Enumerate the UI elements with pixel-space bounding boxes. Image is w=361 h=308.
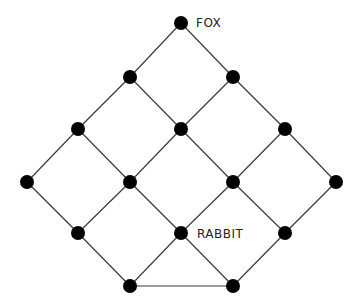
node-n12 (278, 226, 292, 240)
node-n13 (123, 279, 137, 293)
edge-n3-n6 (27, 129, 78, 182)
node-n1 (123, 70, 137, 84)
edge-n0-n1 (130, 23, 181, 77)
edge-n10-n13 (78, 233, 130, 286)
lattice-diagram: FOX RABBIT (0, 0, 361, 308)
edge-n0-n2 (181, 23, 233, 77)
node-n3 (71, 122, 85, 136)
edges-group (27, 23, 336, 286)
edge-n1-n3 (78, 77, 130, 129)
node-n8 (226, 175, 240, 189)
node-n2 (226, 70, 240, 84)
edge-n1-n4 (130, 77, 181, 129)
node-fox (174, 16, 188, 30)
edge-n8-n11 (181, 182, 233, 233)
node-n4 (174, 122, 188, 136)
node-n9 (329, 175, 343, 189)
edge-n4-n8 (181, 129, 233, 182)
fox-label: FOX (196, 16, 221, 30)
edge-n5-n9 (285, 129, 336, 182)
edge-n11-n13 (130, 233, 181, 286)
rabbit-label: RABBIT (197, 227, 244, 241)
edge-n2-n5 (233, 77, 285, 129)
edge-n8-n12 (233, 182, 285, 233)
node-rabbit (174, 226, 188, 240)
nodes-group (20, 16, 343, 293)
edge-n7-n11 (130, 182, 181, 233)
node-n10 (71, 226, 85, 240)
node-n5 (278, 122, 292, 136)
edge-n6-n10 (27, 182, 78, 233)
edge-n2-n4 (181, 77, 233, 129)
edge-n4-n7 (130, 129, 181, 182)
edge-n5-n8 (233, 129, 285, 182)
edge-n7-n10 (78, 182, 130, 233)
node-n14 (226, 279, 240, 293)
edge-n9-n12 (285, 182, 336, 233)
node-n6 (20, 175, 34, 189)
node-n7 (123, 175, 137, 189)
edge-n3-n7 (78, 129, 130, 182)
